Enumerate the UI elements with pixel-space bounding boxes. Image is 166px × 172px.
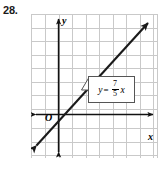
equation-fraction: 7 5 (112, 80, 119, 98)
x-axis-label: x (148, 131, 153, 142)
fraction-numerator: 7 (112, 80, 118, 88)
figure-page: 28. (0, 0, 166, 172)
fraction-denominator: 5 (112, 90, 118, 98)
equation-lhs: y (98, 85, 102, 95)
equation-text: y = 7 5 x (89, 77, 134, 102)
y-axis-label: y (62, 15, 66, 26)
origin-label: O (45, 112, 52, 123)
equation-relation: = (103, 85, 108, 95)
problem-number: 28. (3, 4, 18, 16)
equation-trailing-variable: x (121, 85, 125, 95)
equation-callout-box: y = 7 5 x (88, 76, 135, 103)
